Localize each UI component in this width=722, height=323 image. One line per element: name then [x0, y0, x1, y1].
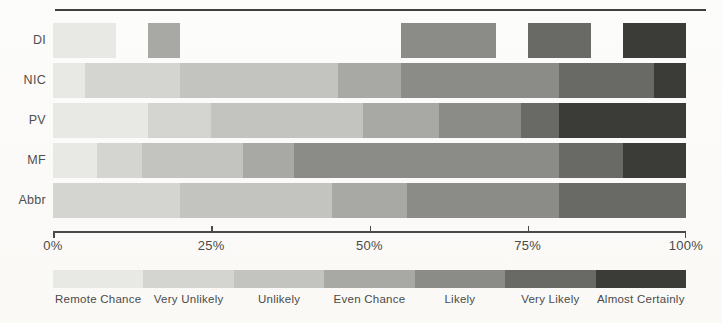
row-label-mf: MF: [0, 143, 46, 178]
bar-segment-nic-3: [338, 63, 401, 98]
legend-label-1: Very Unlikely: [154, 293, 224, 305]
x-axis-tick-label-75: 75%: [514, 238, 541, 253]
x-axis-tick-0: [53, 231, 55, 238]
bar-segment-mf-2: [142, 143, 243, 178]
legend-swatch-6: [596, 270, 686, 288]
legend-swatch-1: [143, 270, 233, 288]
bar-segment-mf-5: [559, 143, 622, 178]
bar-segment-abbr-1: [180, 183, 332, 218]
bar-segment-di-4: [623, 23, 686, 58]
bar-segment-abbr-4: [559, 183, 686, 218]
bar-segment-pv-5: [521, 103, 559, 138]
bar-segment-nic-5: [559, 63, 654, 98]
bar-segment-pv-4: [439, 103, 521, 138]
legend-label-0: Remote Chance: [55, 293, 141, 305]
bar-segment-pv-3: [363, 103, 439, 138]
legend-swatch-5: [505, 270, 595, 288]
legend-swatch-3: [324, 270, 414, 288]
bar-segment-mf-4: [294, 143, 560, 178]
bar-segment-nic-1: [85, 63, 180, 98]
x-axis-tick-100: [685, 231, 687, 238]
row-label-di: DI: [0, 23, 46, 58]
x-axis-tick-label-50: 50%: [356, 238, 383, 253]
bar-segment-nic-6: [654, 63, 686, 98]
bar-segment-di-1: [148, 23, 180, 58]
bar-segment-nic-4: [401, 63, 559, 98]
bar-segment-mf-0: [53, 143, 97, 178]
bar-segment-pv-1: [148, 103, 211, 138]
legend-label-3: Even Chance: [334, 293, 406, 305]
x-axis-tick-50: [370, 226, 372, 233]
bar-segment-nic-2: [180, 63, 338, 98]
bar-segment-di-3: [528, 23, 591, 58]
x-axis-tick-label-0: 0%: [43, 238, 62, 253]
x-axis-tick-label-100: 100%: [669, 238, 703, 253]
chart-area: DINICPVMFAbbr0%25%50%75%100%Remote Chanc…: [0, 0, 722, 323]
bar-segment-nic-0: [53, 63, 85, 98]
legend-label-6: Almost Certainly: [597, 293, 685, 305]
bar-segment-pv-6: [559, 103, 686, 138]
bar-segment-abbr-3: [407, 183, 559, 218]
x-axis-tick-label-25: 25%: [198, 238, 225, 253]
row-label-pv: PV: [0, 103, 46, 138]
bar-segment-di-0: [53, 23, 116, 58]
bar-segment-abbr-0: [53, 183, 180, 218]
x-axis-tick-75: [528, 226, 530, 233]
row-label-abbr: Abbr: [0, 183, 46, 218]
bar-segment-mf-3: [243, 143, 294, 178]
x-axis-tick-25: [211, 226, 213, 233]
legend-swatch-2: [234, 270, 324, 288]
bar-segment-mf-6: [623, 143, 686, 178]
probability-words-chart: DINICPVMFAbbr0%25%50%75%100%Remote Chanc…: [0, 0, 722, 323]
bar-segment-pv-0: [53, 103, 148, 138]
legend-label-5: Very Likely: [521, 293, 579, 305]
legend-swatch-0: [53, 270, 143, 288]
bar-segment-pv-2: [211, 103, 363, 138]
legend-label-4: Likely: [444, 293, 475, 305]
bar-segment-abbr-2: [332, 183, 408, 218]
bar-segment-mf-1: [97, 143, 141, 178]
legend-label-2: Unlikely: [258, 293, 300, 305]
row-label-nic: NIC: [0, 63, 46, 98]
bar-segment-di-2: [401, 23, 496, 58]
legend-swatch-4: [415, 270, 505, 288]
